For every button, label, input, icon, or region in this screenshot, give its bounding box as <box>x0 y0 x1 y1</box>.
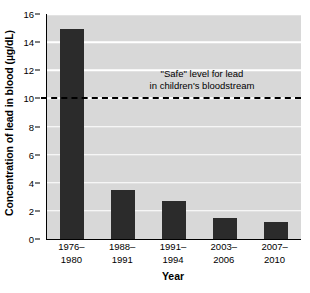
plot-area: "Safe" level for lead in children's bloo… <box>46 14 301 240</box>
y-tick-label: 8 <box>29 121 34 132</box>
x-tick-label-line: 1994 <box>148 254 199 267</box>
y-tick-mark <box>35 154 40 155</box>
y-tick-mark <box>35 239 40 240</box>
x-tick-label-line: 2003– <box>198 241 249 254</box>
bar-chart: Concentration of lead in blood (µg/dL) 0… <box>0 0 310 293</box>
y-tick-mark <box>35 182 40 183</box>
x-tick-label-line: 1988– <box>97 241 148 254</box>
y-tick-label: 4 <box>29 177 34 188</box>
safe-level-dashed-line <box>41 97 301 99</box>
y-axis-tick-labels: 0246810121416 <box>18 14 40 239</box>
bars-group <box>47 14 301 239</box>
y-tick-mark <box>35 210 40 211</box>
x-tick-label-line: 2006 <box>198 254 249 267</box>
x-tick-label: 1988–1991 <box>97 241 148 266</box>
safe-level-annotation: "Safe" level for lead in children's bloo… <box>117 68 287 92</box>
y-tick-label: 14 <box>23 37 34 48</box>
x-axis-title: Year <box>46 270 300 282</box>
y-tick-label: 16 <box>23 9 34 20</box>
bar <box>60 29 84 239</box>
safe-level-annotation-line1: "Safe" level for lead <box>117 68 287 80</box>
x-tick-label-line: 1991– <box>148 241 199 254</box>
x-tick-label: 2007–2010 <box>249 241 300 266</box>
bar <box>111 190 135 239</box>
y-tick-mark <box>35 14 40 15</box>
y-tick-mark <box>35 42 40 43</box>
x-tick-label: 1991–1994 <box>148 241 199 266</box>
y-axis-title-text: Concentration of lead in blood (µg/dL) <box>3 30 15 216</box>
y-tick-mark <box>35 98 40 99</box>
x-tick-label: 2003–2006 <box>198 241 249 266</box>
x-tick-label: 1976–1980 <box>46 241 97 266</box>
y-tick-label: 10 <box>23 93 34 104</box>
y-axis-title: Concentration of lead in blood (µg/dL) <box>0 0 18 245</box>
safe-level-annotation-line2: in children's bloodstream <box>117 80 287 92</box>
y-tick-label: 0 <box>29 234 34 245</box>
x-tick-label-line: 1991 <box>97 254 148 267</box>
x-axis-tick-labels: 1976–19801988–19911991–19942003–20062007… <box>46 241 300 271</box>
y-tick-label: 2 <box>29 205 34 216</box>
bar <box>162 201 186 239</box>
x-tick-label-line: 2010 <box>249 254 300 267</box>
x-tick-label-line: 2007– <box>249 241 300 254</box>
y-tick-mark <box>35 70 40 71</box>
bar <box>264 222 288 239</box>
y-tick-label: 12 <box>23 65 34 76</box>
x-tick-label-line: 1980 <box>46 254 97 267</box>
x-tick-label-line: 1976– <box>46 241 97 254</box>
bar <box>213 218 237 239</box>
y-tick-mark <box>35 126 40 127</box>
y-tick-label: 6 <box>29 149 34 160</box>
